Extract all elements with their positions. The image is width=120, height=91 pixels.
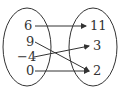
range-label-3: 3 (93, 38, 101, 53)
domain-label-6: 6 (24, 18, 32, 33)
range-label-11: 11 (90, 18, 107, 33)
domain-label-0: 0 (26, 63, 34, 78)
arrow-9-to-2 (35, 42, 89, 71)
mapping-diagram: 6 9 −4 0 11 3 2 (0, 0, 120, 91)
domain-label-9: 9 (26, 34, 34, 49)
domain-label-neg4: −4 (17, 49, 36, 64)
arrow-neg4-to-3 (34, 46, 89, 57)
range-label-2: 2 (93, 63, 101, 78)
